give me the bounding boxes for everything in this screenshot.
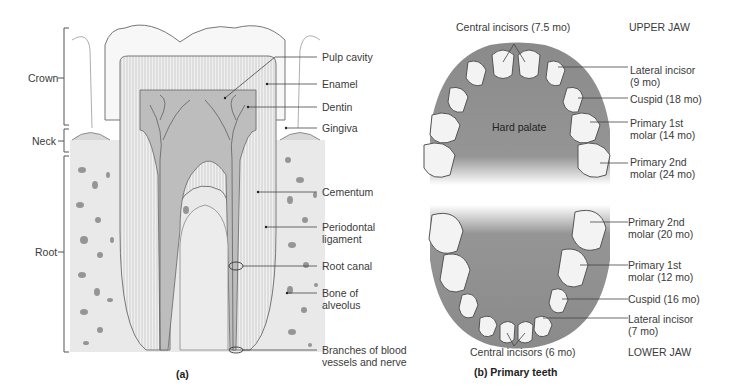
label-lower-lateral-incisor: Lateral incisor (7 mo) — [628, 313, 693, 337]
label-hard-palate: Hard palate — [492, 121, 546, 133]
label-blood-vessels-nerve: Branches of blood vessels and nerve — [322, 344, 407, 368]
label-lower-cuspid: Cuspid (16 mo) — [628, 293, 700, 305]
region-label-neck: Neck — [32, 135, 56, 147]
gingiva-right — [280, 133, 320, 141]
label-line1: Lateral incisor — [630, 64, 695, 76]
label-line1: Bone of — [322, 287, 361, 299]
label-upper-cuspid: Cuspid (18 mo) — [630, 93, 702, 105]
label-line1: Primary 2nd — [630, 156, 695, 168]
label-root-canal: Root canal — [322, 260, 372, 272]
label-line1: Periodontal — [322, 221, 375, 233]
label-line2: molar (20 mo) — [628, 228, 693, 240]
gingiva-left — [72, 133, 110, 141]
region-label-root: Root — [35, 246, 57, 258]
label-lower-central-incisors: Central incisors (6 mo) — [470, 346, 576, 358]
upper-jaw-title: UPPER JAW — [629, 21, 690, 33]
label-line1: Lateral incisor — [628, 313, 693, 325]
label-upper-central-incisors: Central incisors (7.5 mo) — [456, 21, 570, 33]
label-line2: ligament — [322, 233, 375, 245]
lower-jaw-title: LOWER JAW — [628, 346, 691, 358]
caption-a: (a) — [176, 368, 189, 380]
label-gingiva: Gingiva — [322, 122, 358, 134]
label-upper-primary-1st-molar: Primary 1st molar (14 mo) — [630, 117, 695, 141]
label-line2: molar (24 mo) — [630, 168, 695, 180]
label-line2: molar (12 mo) — [628, 271, 693, 283]
label-line2: alveolus — [322, 299, 361, 311]
label-upper-primary-2nd-molar: Primary 2nd molar (24 mo) — [630, 156, 695, 180]
label-enamel: Enamel — [322, 78, 358, 90]
caption-b: (b) Primary teeth — [474, 366, 557, 378]
label-periodontal-ligament: Periodontal ligament — [322, 221, 375, 245]
label-line2: molar (14 mo) — [630, 129, 695, 141]
label-line1: Primary 1st — [630, 117, 695, 129]
label-upper-lateral-incisor: Lateral incisor (9 mo) — [630, 64, 695, 88]
region-brackets — [58, 28, 69, 352]
label-lower-primary-1st-molar: Primary 1st molar (12 mo) — [628, 259, 693, 283]
label-bone-of-alveolus: Bone of alveolus — [322, 287, 361, 311]
label-dentin: Dentin — [322, 101, 352, 113]
label-line2: (7 mo) — [628, 325, 693, 337]
label-pulp-cavity: Pulp cavity — [322, 51, 373, 63]
label-line1: Primary 1st — [628, 259, 693, 271]
region-label-crown: Crown — [28, 72, 58, 84]
label-lower-primary-2nd-molar: Primary 2nd molar (20 mo) — [628, 216, 693, 240]
label-line1: Branches of blood — [322, 344, 407, 356]
label-line2: (9 mo) — [630, 76, 695, 88]
label-cementum: Cementum — [322, 186, 373, 198]
label-line2: vessels and nerve — [322, 356, 407, 368]
label-line1: Primary 2nd — [628, 216, 693, 228]
